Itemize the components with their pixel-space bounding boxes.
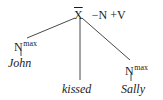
nmax-node-left: Nmax <box>14 38 37 54</box>
branch-root-to-john <box>27 18 75 38</box>
nmax-right-superscript: max <box>134 63 148 72</box>
syntax-tree: X −N +V Nmax John kissed Nmax Sally <box>0 0 163 100</box>
leaf-john: John <box>8 57 31 69</box>
nmax-left-category: N <box>14 40 23 54</box>
leaf-sally: Sally <box>121 83 145 95</box>
nmax-node-right: Nmax <box>125 62 148 78</box>
leaf-kissed: kissed <box>62 83 91 95</box>
root-node: X −N +V <box>74 6 126 22</box>
branch-root-to-sally <box>82 18 130 60</box>
nmax-left-superscript: max <box>23 39 37 48</box>
nmax-right-category: N <box>125 64 134 78</box>
root-features: −N +V <box>92 8 126 22</box>
root-category: X <box>74 8 83 22</box>
